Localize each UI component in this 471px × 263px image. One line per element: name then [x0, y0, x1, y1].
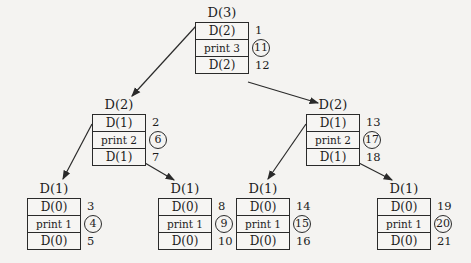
cell-call: D(0): [237, 233, 289, 249]
cell-call: D(0): [237, 199, 289, 216]
cell-print: print 2: [307, 132, 359, 149]
arrow-r-rr: [359, 163, 392, 180]
node-title: D(3): [195, 6, 249, 20]
arrow-l-lr: [145, 163, 174, 180]
cell-call: D(0): [378, 199, 430, 216]
arrow-l-ll: [63, 124, 92, 179]
stack-frame: D(0) print 1 D(0): [377, 198, 431, 250]
cell-print: print 1: [237, 216, 289, 233]
step-number-circled: 17: [363, 131, 381, 149]
step-number: 5: [87, 233, 94, 249]
stack-frame: D(0) print 1 D(0): [158, 198, 212, 250]
step-number: 19: [437, 198, 452, 214]
cell-call: D(0): [378, 233, 430, 249]
cell-print: print 1: [378, 216, 430, 233]
node-title: D(1): [158, 182, 212, 196]
node-title: D(1): [377, 182, 431, 196]
stack-frame: D(1) print 2 D(1): [306, 114, 360, 166]
stack-frame: D(2) print 3 D(2): [195, 22, 249, 74]
cell-call: D(1): [93, 115, 145, 132]
cell-print: print 2: [93, 132, 145, 149]
cell-call: D(0): [28, 199, 80, 216]
step-number-circled: 4: [84, 215, 102, 233]
stack-frame: D(0) print 1 D(0): [236, 198, 290, 250]
step-number: 1: [255, 22, 262, 38]
step-number: 13: [366, 114, 381, 130]
cell-call: D(2): [196, 57, 248, 73]
cell-call: D(0): [159, 199, 211, 216]
cell-call: D(1): [307, 115, 359, 132]
node-title: D(2): [92, 98, 146, 112]
cell-call: D(1): [307, 149, 359, 165]
step-number-circled: 20: [434, 215, 452, 233]
node-title: D(2): [306, 98, 360, 112]
cell-call: D(1): [93, 149, 145, 165]
step-number: 7: [152, 149, 159, 165]
arrow-r-rl: [268, 124, 306, 179]
node-title: D(1): [27, 182, 81, 196]
step-number: 10: [218, 233, 233, 249]
cell-call: D(0): [28, 233, 80, 249]
step-number-circled: 6: [149, 131, 167, 149]
step-number: 3: [87, 198, 94, 214]
cell-call: D(2): [196, 23, 248, 40]
step-number: 18: [366, 149, 381, 165]
step-number-circled: 9: [215, 215, 233, 233]
step-number: 16: [296, 233, 311, 249]
step-number-circled: 15: [293, 215, 311, 233]
step-number: 12: [255, 57, 270, 73]
stack-frame: D(0) print 1 D(0): [27, 198, 81, 250]
arrow-root-left: [132, 26, 196, 96]
step-number: 14: [296, 198, 311, 214]
node-title: D(1): [236, 182, 290, 196]
stack-frame: D(1) print 2 D(1): [92, 114, 146, 166]
step-number-circled: 11: [252, 39, 270, 57]
step-number: 8: [218, 198, 225, 214]
step-number: 2: [152, 114, 159, 130]
step-number: 21: [437, 233, 452, 249]
cell-print: print 1: [159, 216, 211, 233]
cell-call: D(0): [159, 233, 211, 249]
cell-print: print 1: [28, 216, 80, 233]
cell-print: print 3: [196, 40, 248, 57]
